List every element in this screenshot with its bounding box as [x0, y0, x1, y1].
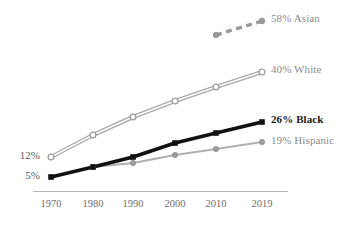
- series-line-asian: [216, 21, 262, 35]
- x-tick-1990: 1990: [113, 198, 153, 209]
- series-line-white-inner: [51, 72, 262, 157]
- y-annotation-5-percent: 5%: [6, 169, 40, 181]
- series-line-black: [51, 122, 262, 177]
- series-label-black: 26% Black: [271, 113, 324, 125]
- series-label-asian: 58% Asian: [271, 12, 320, 24]
- x-tick-2019: 2019: [242, 198, 282, 209]
- x-tick-1970: 1970: [31, 198, 71, 209]
- series-label-white: 40% White: [271, 63, 322, 75]
- chart-container: 58% Asian 40% White 26% Black 19% Hispan…: [0, 0, 356, 231]
- series-line-white-outer: [51, 72, 262, 157]
- series-label-hispanic: 19% Hispanic: [271, 134, 334, 146]
- series-line-hispanic: [51, 142, 262, 177]
- x-tick-2010: 2010: [196, 198, 236, 209]
- x-tick-2000: 2000: [155, 198, 195, 209]
- x-tick-1980: 1980: [73, 198, 113, 209]
- y-annotation-12-percent: 12%: [6, 149, 40, 161]
